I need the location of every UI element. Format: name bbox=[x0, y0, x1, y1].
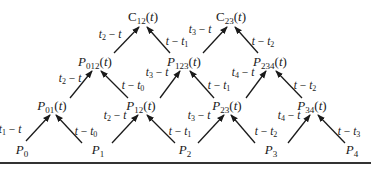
node-subscript: 23 bbox=[220, 105, 229, 115]
node-p123: P123(t) bbox=[167, 54, 201, 71]
node-p4: P4 bbox=[346, 142, 358, 159]
edge-label: t2 − t bbox=[59, 72, 82, 86]
node-argument: (t) bbox=[143, 98, 155, 113]
edge-label: t2 − t bbox=[99, 28, 122, 42]
node-base: P bbox=[265, 142, 273, 157]
node-p0: P0 bbox=[16, 142, 28, 159]
node-p012: P012(t) bbox=[78, 54, 112, 71]
node-argument: (t) bbox=[189, 54, 201, 69]
node-subscript: 123 bbox=[175, 61, 189, 71]
arrow-p3-to-p23 bbox=[231, 115, 255, 143]
arrow-p0-to-p01 bbox=[26, 115, 50, 141]
edge-label: t − t3 bbox=[338, 125, 361, 139]
node-base: P bbox=[16, 142, 24, 157]
edge-label: t4 − t bbox=[278, 109, 301, 123]
node-c23: C23(t) bbox=[216, 9, 246, 26]
edge-label: t − t2 bbox=[252, 35, 275, 49]
node-subscript: 234 bbox=[261, 61, 275, 71]
pyramid-diagram: P0P1P2P3P4P01(t)P12(t)P23(t)P34(t)P012(t… bbox=[0, 0, 371, 170]
node-argument: (t) bbox=[275, 54, 287, 69]
node-base: P bbox=[126, 98, 134, 113]
node-subscript: 12 bbox=[134, 105, 143, 115]
edge-label: t1 − t bbox=[0, 123, 21, 137]
node-p3: P3 bbox=[265, 142, 277, 159]
node-subscript: 2 bbox=[187, 149, 192, 159]
node-p01: P01(t) bbox=[37, 98, 66, 115]
node-argument: (t) bbox=[229, 98, 241, 113]
edge-label: t − t2 bbox=[294, 79, 317, 93]
node-subscript: 4 bbox=[354, 149, 359, 159]
node-subscript: 01 bbox=[45, 105, 54, 115]
edge-label: t − t1 bbox=[169, 125, 192, 139]
node-base: C bbox=[128, 9, 137, 24]
node-subscript: 3 bbox=[273, 149, 278, 159]
edge-label: t − t1 bbox=[166, 35, 189, 49]
edge-label: t − t0 bbox=[122, 79, 145, 93]
edge-label: t − t1 bbox=[208, 79, 231, 93]
node-base: P bbox=[78, 54, 86, 69]
edge-label: t3 − t bbox=[189, 23, 212, 37]
node-base: P bbox=[346, 142, 354, 157]
node-subscript: 012 bbox=[86, 61, 100, 71]
node-c12: C12(t) bbox=[128, 9, 158, 26]
node-p34: P34(t) bbox=[297, 98, 326, 115]
node-base: P bbox=[179, 142, 187, 157]
edge-label: t4 − t bbox=[232, 66, 255, 80]
node-subscript: 1 bbox=[100, 149, 105, 159]
edge-label: t − t0 bbox=[75, 125, 98, 139]
node-base: C bbox=[216, 9, 225, 24]
node-argument: (t) bbox=[146, 9, 158, 24]
edge-label: t3 − t bbox=[188, 109, 211, 123]
node-p23: P23(t) bbox=[212, 98, 241, 115]
node-base: P bbox=[212, 98, 220, 113]
node-base: P bbox=[92, 142, 100, 157]
node-subscript: 34 bbox=[305, 105, 314, 115]
node-argument: (t) bbox=[234, 9, 246, 24]
node-argument: (t) bbox=[314, 98, 326, 113]
node-argument: (t) bbox=[100, 54, 112, 69]
edge-label: t − t2 bbox=[255, 125, 278, 139]
node-p12: P12(t) bbox=[126, 98, 155, 115]
node-subscript: 23 bbox=[225, 16, 234, 26]
node-p1: P1 bbox=[92, 142, 104, 159]
node-subscript: 12 bbox=[137, 16, 146, 26]
edge-label: t3 − t bbox=[146, 66, 169, 80]
node-p234: P234(t) bbox=[253, 54, 287, 71]
node-subscript: 0 bbox=[24, 149, 29, 159]
node-argument: (t) bbox=[54, 98, 66, 113]
node-p2: P2 bbox=[179, 142, 191, 159]
edge-label: t2 − t bbox=[104, 109, 127, 123]
node-base: P bbox=[37, 98, 45, 113]
horizontal-rule bbox=[0, 162, 371, 164]
